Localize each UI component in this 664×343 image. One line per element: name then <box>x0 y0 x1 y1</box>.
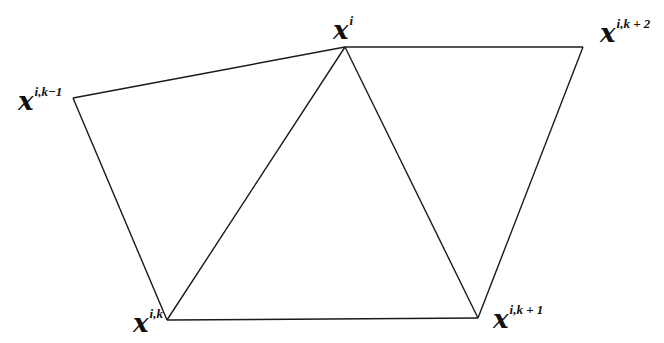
label-x-i-k-plus-1: xi,k + 1 <box>493 306 543 332</box>
edge-xi_k-xi_kp1 <box>167 318 478 320</box>
label-x-i-k-plus-2: xi,k + 2 <box>600 20 650 46</box>
edge-xi_km1-xi_k <box>73 98 167 320</box>
edge-xi_k-xi <box>167 47 345 320</box>
edge-xi_km1-xi <box>73 47 345 98</box>
edge-xi-xi_kp1 <box>345 47 478 318</box>
mesh-diagram <box>0 0 664 343</box>
label-x-i-k: xi,k <box>133 310 163 336</box>
label-x-i: xi <box>333 17 353 43</box>
label-x-i-k-minus-1: xi,k−1 <box>18 88 62 114</box>
edge-xi_kp2-xi_kp1 <box>478 47 583 318</box>
